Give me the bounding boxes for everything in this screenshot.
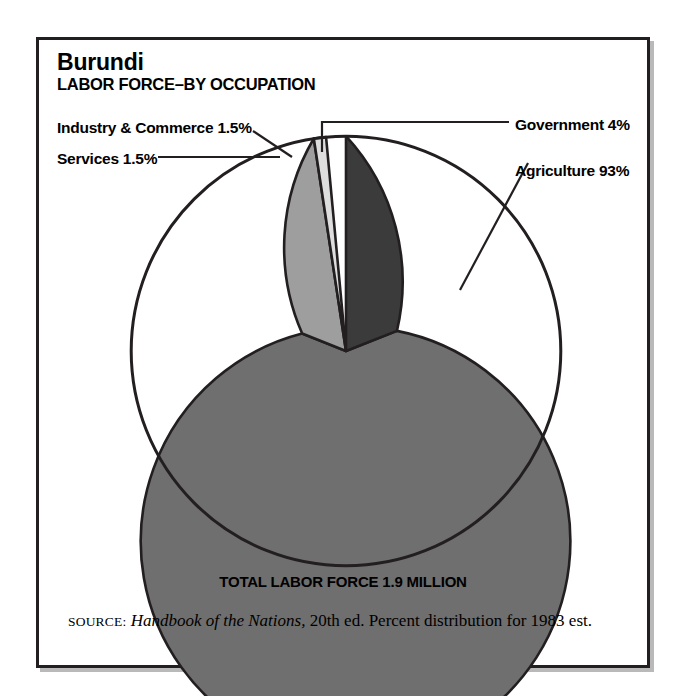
chart-figure-frame: Burundi LABOR FORCE–BY OCCUPATION Indust… <box>36 37 650 668</box>
slice-label-agriculture: Agriculture 93% <box>515 162 629 179</box>
source-note: SOURCE: Handbook of the Nations, 20th ed… <box>68 610 621 632</box>
total-labor-force-label: TOTAL LABOR FORCE 1.9 MILLION <box>39 573 647 590</box>
leader-line-agriculture <box>460 163 528 290</box>
source-note-title: Handbook of the Nations, <box>131 611 306 630</box>
slice-label-government: Government 4% <box>515 116 630 133</box>
source-note-rest: 20th ed. Percent distribution for 1983 e… <box>305 611 592 630</box>
slice-label-industry-commerce: Industry & Commerce 1.5% <box>57 119 252 136</box>
pie-slice-government <box>346 136 403 351</box>
source-note-word: SOURCE: <box>68 614 126 629</box>
slice-label-services: Services 1.5% <box>57 150 157 167</box>
